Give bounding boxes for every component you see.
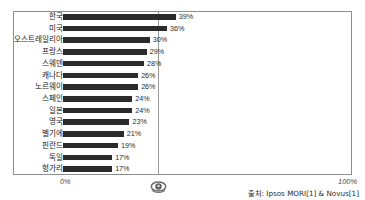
bar xyxy=(63,96,132,102)
bar-value-label: 19% xyxy=(121,140,135,152)
bar xyxy=(63,37,150,43)
category-label: 헝가리 xyxy=(0,163,63,175)
bar-row: 스웨덴28% xyxy=(0,58,365,70)
bar xyxy=(63,143,118,149)
clipped-title-remnant xyxy=(4,0,124,6)
bar xyxy=(63,166,112,172)
axis-tick-label-max: 100% xyxy=(338,177,357,186)
category-label: 영국 xyxy=(0,116,63,128)
category-label: 오스트레일리아 xyxy=(0,34,63,46)
eye-icon xyxy=(149,180,168,193)
bar-row: 벨기에21% xyxy=(0,128,365,140)
bar xyxy=(63,119,129,125)
bar-row: 스페인24% xyxy=(0,93,365,105)
bar-value-label: 24% xyxy=(135,93,149,105)
axis-tick-label-min: 0% xyxy=(60,177,71,186)
bar-rows-container: 한국39%미국36%오스트레일리아30%프랑스29%스웨덴28%캐나다26%노르… xyxy=(0,11,365,175)
bar-row: 영국23% xyxy=(0,116,365,128)
bar-row: 일본24% xyxy=(0,105,365,117)
bar-value-label: 30% xyxy=(153,34,167,46)
category-label: 캐나다 xyxy=(0,70,63,82)
bar-row: 노르웨이26% xyxy=(0,81,365,93)
bar-row: 헝가리17% xyxy=(0,163,365,175)
bar-value-label: 24% xyxy=(135,105,149,117)
bar xyxy=(63,131,124,137)
bar-value-label: 28% xyxy=(147,58,161,70)
bar-value-label: 39% xyxy=(179,11,193,23)
bar-value-label: 23% xyxy=(132,116,146,128)
bar xyxy=(63,108,132,114)
category-label: 벨기에 xyxy=(0,128,63,140)
category-label: 프랑스 xyxy=(0,46,63,58)
bar xyxy=(63,61,144,67)
bar-value-label: 29% xyxy=(150,46,164,58)
category-label: 노르웨이 xyxy=(0,81,63,93)
category-label: 한국 xyxy=(0,11,63,23)
bar-value-label: 26% xyxy=(141,70,155,82)
bar-value-label: 36% xyxy=(170,23,184,35)
bar xyxy=(63,14,176,20)
category-label: 미국 xyxy=(0,23,63,35)
source-note: 출처: Ipsos MORI[1] & Novus[1] xyxy=(248,188,359,198)
bar-row: 핀란드19% xyxy=(0,140,365,152)
bar-row: 캐나다26% xyxy=(0,70,365,82)
bar-row: 오스트레일리아30% xyxy=(0,34,365,46)
bar-row: 독일17% xyxy=(0,152,365,164)
bar-value-label: 17% xyxy=(115,163,129,175)
category-label: 핀란드 xyxy=(0,140,63,152)
bar xyxy=(63,49,147,55)
bar-row: 프랑스29% xyxy=(0,46,365,58)
bar-row: 한국39% xyxy=(0,11,365,23)
category-label: 스페인 xyxy=(0,93,63,105)
category-label: 스웨덴 xyxy=(0,58,63,70)
bar xyxy=(63,26,167,32)
bar-value-label: 17% xyxy=(115,152,129,164)
bar-row: 미국36% xyxy=(0,23,365,35)
bar xyxy=(63,84,138,90)
bar xyxy=(63,73,138,79)
bar-value-label: 21% xyxy=(127,128,141,140)
bar xyxy=(63,155,112,161)
bar-value-label: 26% xyxy=(141,81,155,93)
category-label: 일본 xyxy=(0,105,63,117)
category-label: 독일 xyxy=(0,152,63,164)
